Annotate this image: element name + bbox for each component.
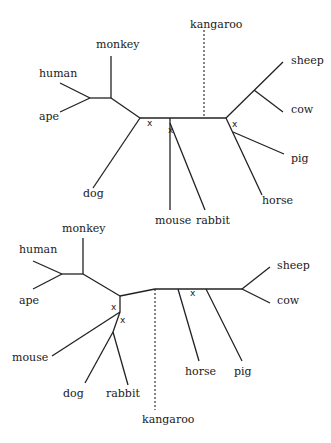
top-tree: monkey human ape dog mouse rabbit kangar… — [39, 18, 324, 227]
bottom-edge-dog — [85, 332, 113, 383]
top-edge-primate-stem — [111, 98, 140, 118]
bottom-edge-horse — [178, 289, 199, 361]
bottom-label-rabbit: rabbit — [106, 387, 140, 400]
top-label-ape: ape — [39, 110, 59, 123]
bottom-edge-pig — [206, 289, 242, 361]
bottom-mark-x-1: x — [111, 302, 117, 312]
top-label-monkey: monkey — [96, 38, 140, 51]
top-label-dog: dog — [83, 187, 104, 200]
top-mark-x-3: x — [232, 119, 238, 129]
bottom-edge-mouse — [52, 312, 120, 356]
bottom-edge-ape — [33, 274, 62, 289]
bottom-label-kangaroo: kangaroo — [142, 413, 195, 426]
bottom-label-dog: dog — [63, 387, 84, 400]
top-label-sheep: sheep — [291, 54, 324, 67]
bottom-tree: monkey human ape mouse dog rabbit kangar… — [12, 222, 310, 426]
bottom-label-pig: pig — [234, 365, 252, 378]
bottom-label-cow: cow — [277, 294, 300, 307]
top-edge-dog — [93, 118, 140, 188]
bottom-label-sheep: sheep — [277, 259, 310, 272]
bottom-edge-primate-stem — [83, 274, 120, 296]
top-mark-x-2: x — [168, 125, 174, 135]
top-label-kangaroo: kangaroo — [190, 18, 243, 31]
bottom-edge-rabbit — [113, 332, 128, 385]
bottom-label-mouse: mouse — [12, 351, 48, 364]
bottom-label-ape: ape — [19, 294, 39, 307]
top-label-horse: horse — [262, 194, 293, 207]
bottom-mark-x-2: x — [120, 315, 126, 325]
bottom-edge-stem-to-backbone — [120, 289, 155, 296]
top-edge-cow — [254, 90, 283, 112]
bottom-edge-human — [33, 261, 62, 274]
bottom-edge-sheep — [242, 267, 270, 289]
bottom-label-horse: horse — [185, 365, 216, 378]
top-label-rabbit: rabbit — [196, 214, 230, 227]
bottom-label-monkey: monkey — [62, 222, 106, 235]
bottom-label-human: human — [19, 243, 57, 256]
top-edge-ape — [60, 98, 90, 112]
top-edge-rabbit — [170, 123, 205, 210]
top-edge-human — [60, 83, 90, 98]
top-label-human: human — [39, 67, 77, 80]
top-label-pig: pig — [291, 152, 309, 165]
bottom-edge-cow — [242, 289, 270, 303]
bottom-mark-x-3: x — [190, 288, 196, 298]
top-mark-x-1: x — [147, 118, 153, 128]
top-label-cow: cow — [291, 103, 314, 116]
top-label-mouse: mouse — [155, 214, 191, 227]
tree-diagram: monkey human ape dog mouse rabbit kangar… — [0, 0, 331, 443]
top-edge-horse — [226, 118, 262, 195]
